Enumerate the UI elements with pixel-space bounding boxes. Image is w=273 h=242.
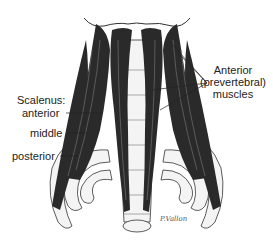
artist-signature: P.Vallon <box>160 215 187 223</box>
label-scalenus-anterior: anterior <box>22 107 59 119</box>
label-line: muscles <box>200 88 266 100</box>
label-line: Anterior <box>200 64 266 76</box>
neck-muscles-drawing <box>0 0 273 242</box>
label-scalenus: Scalenus: <box>17 94 65 106</box>
label-line: (prevertebral) <box>200 76 266 88</box>
label-scalenus-middle: middle <box>30 127 62 139</box>
label-anterior-prevertebral-muscles: Anterior (prevertebral) muscles <box>200 64 266 100</box>
label-scalenus-posterior: posterior <box>12 150 55 162</box>
anatomical-illustration: Anterior (prevertebral) muscles Scalenus… <box>0 0 273 242</box>
